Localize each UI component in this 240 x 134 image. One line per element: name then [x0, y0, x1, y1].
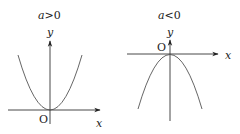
y-axis-label: y — [166, 26, 174, 39]
condition-label-a-positive: a>0 — [38, 9, 61, 22]
origin-label: O — [39, 113, 48, 126]
origin-label: O — [157, 41, 166, 54]
x-axis-label: x — [96, 117, 103, 130]
x-axis-label: x — [225, 49, 232, 62]
panel-a-positive: a>0 y O x — [8, 9, 103, 130]
condition-label-a-negative: a<0 — [158, 9, 181, 22]
y-axis-label: y — [46, 26, 54, 39]
parabola-diagram: a>0 y O x a<0 y O x — [0, 0, 240, 134]
panel-a-negative: a<0 y O x — [127, 9, 232, 121]
